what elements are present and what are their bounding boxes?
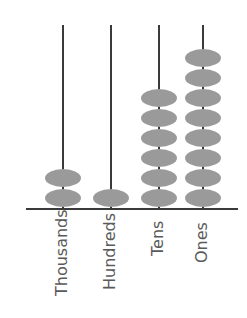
- bead: [185, 149, 221, 167]
- bead: [185, 49, 221, 67]
- bead: [141, 149, 177, 167]
- bead: [185, 129, 221, 147]
- bead: [45, 189, 81, 207]
- bead: [185, 69, 221, 87]
- label-ones: Ones: [194, 222, 210, 263]
- bead: [45, 169, 81, 187]
- bead: [185, 89, 221, 107]
- bead: [141, 189, 177, 207]
- bead: [141, 169, 177, 187]
- label-thousands: Thousands: [54, 209, 70, 296]
- bead: [93, 189, 129, 207]
- bead: [185, 189, 221, 207]
- bead: [141, 129, 177, 147]
- bead: [185, 169, 221, 187]
- label-tens: Tens: [150, 221, 166, 256]
- bead: [141, 89, 177, 107]
- bead: [141, 109, 177, 127]
- label-hundreds: Hundreds: [102, 213, 118, 290]
- bead: [185, 109, 221, 127]
- rod-hundreds: [110, 25, 112, 209]
